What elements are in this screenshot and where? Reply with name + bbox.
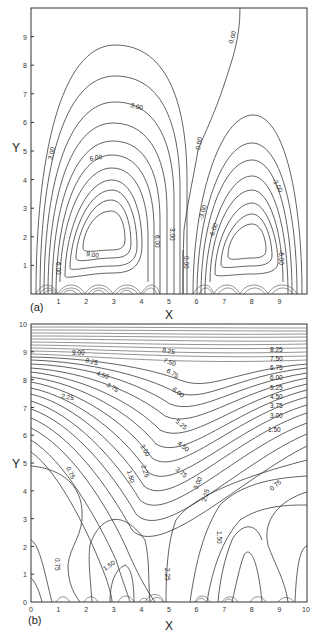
svg-text:9: 9 (23, 349, 27, 356)
svg-text:4: 4 (139, 606, 143, 613)
chart-a: 1 2 3 4 5 6 7 8 9 1 2 3 4 5 6 7 8 9 (12, 8, 307, 322)
svg-text:8: 8 (23, 377, 27, 384)
svg-text:1: 1 (57, 606, 61, 613)
svg-text:5: 5 (167, 298, 171, 305)
svg-text:7.50: 7.50 (163, 356, 178, 367)
svg-text:9: 9 (23, 34, 27, 41)
svg-text:6.00: 6.00 (154, 235, 161, 248)
svg-text:2.25: 2.25 (200, 488, 210, 502)
svg-text:6: 6 (23, 119, 27, 126)
svg-text:6: 6 (23, 432, 27, 439)
svg-text:5: 5 (23, 460, 27, 467)
svg-text:-6.00: -6.00 (278, 250, 285, 265)
svg-text:0.00: 0.00 (183, 256, 190, 269)
chart-b-left-region-contours (31, 466, 150, 602)
svg-text:1: 1 (23, 262, 27, 269)
svg-text:1.50: 1.50 (268, 426, 281, 433)
svg-text:3.00: 3.00 (130, 101, 144, 111)
svg-text:1: 1 (57, 298, 61, 305)
chart-a-y-axis-label: Y (12, 141, 20, 155)
svg-text:0.75: 0.75 (54, 558, 61, 571)
svg-text:5.25: 5.25 (174, 417, 188, 431)
svg-text:1.50: 1.50 (216, 531, 223, 544)
svg-text:8: 8 (250, 298, 254, 305)
svg-text:2.25: 2.25 (61, 392, 75, 401)
svg-text:9.00: 9.00 (72, 349, 85, 356)
chart-b: 0 1 2 3 4 5 6 7 8 9 10 0 1 2 3 4 (12, 321, 310, 633)
svg-text:3.75: 3.75 (106, 381, 121, 394)
chart-a-contour-labels: 0.00 0.00 0.00 3.00 3.00 6.00 6.00 6.00 … (46, 30, 285, 275)
chart-b-y-axis-label: Y (12, 457, 20, 471)
svg-text:6.00: 6.00 (270, 374, 283, 381)
svg-text:7: 7 (222, 298, 226, 305)
svg-text:2: 2 (23, 234, 27, 241)
svg-text:2: 2 (84, 298, 88, 305)
chart-b-x-ticks: 0 1 2 3 4 5 6 7 8 9 10 (29, 606, 310, 613)
chart-a-negative-cell-contours (193, 115, 302, 294)
svg-text:3: 3 (23, 516, 27, 523)
svg-text:6.00: 6.00 (55, 262, 62, 275)
svg-text:6.00: 6.00 (89, 153, 103, 162)
svg-text:6: 6 (195, 298, 199, 305)
svg-text:-6.00: -6.00 (207, 222, 219, 239)
svg-text:3.00: 3.00 (270, 412, 283, 419)
svg-text:10: 10 (302, 606, 310, 613)
svg-text:10: 10 (19, 321, 27, 328)
svg-text:7: 7 (222, 606, 226, 613)
svg-text:6.75: 6.75 (270, 364, 283, 371)
svg-text:5: 5 (23, 148, 27, 155)
svg-text:3.75: 3.75 (270, 402, 283, 409)
svg-text:4: 4 (23, 177, 27, 184)
svg-text:9: 9 (277, 606, 281, 613)
chart-b-panel-label: (b) (28, 614, 41, 626)
svg-text:8: 8 (23, 62, 27, 69)
chart-b-top-band-contours (31, 327, 307, 361)
svg-text:2.25: 2.25 (164, 568, 171, 581)
svg-text:9.00: 9.00 (86, 250, 100, 259)
svg-text:3.00: 3.00 (192, 476, 204, 491)
svg-text:0.00: 0.00 (227, 30, 237, 44)
svg-text:3.75: 3.75 (174, 465, 188, 479)
svg-text:8.25: 8.25 (270, 346, 283, 353)
svg-text:4.50: 4.50 (96, 369, 111, 380)
svg-text:6.00: 6.00 (171, 385, 185, 399)
svg-text:4: 4 (23, 488, 27, 495)
chart-b-right-region-contours (218, 492, 307, 602)
svg-text:8.25: 8.25 (162, 346, 176, 355)
svg-text:7.50: 7.50 (270, 355, 283, 362)
svg-text:5.25: 5.25 (270, 384, 283, 391)
svg-text:2: 2 (23, 544, 27, 551)
svg-text:0: 0 (23, 599, 27, 606)
svg-text:8.25: 8.25 (85, 356, 99, 366)
svg-text:7: 7 (23, 91, 27, 98)
svg-text:0.00: 0.00 (194, 136, 203, 150)
chart-a-y-ticks: 1 2 3 4 5 6 7 8 9 (23, 34, 34, 270)
svg-text:4: 4 (139, 298, 143, 305)
svg-text:7: 7 (23, 405, 27, 412)
chart-a-positive-cell-contours (36, 45, 187, 294)
svg-text:6: 6 (195, 606, 199, 613)
chart-a-x-ticks: 1 2 3 4 5 6 7 8 9 (57, 298, 282, 305)
svg-text:4.50: 4.50 (270, 393, 283, 400)
svg-text:9: 9 (277, 298, 281, 305)
svg-text:1: 1 (23, 571, 27, 578)
chart-a-zero-contours (183, 8, 240, 294)
figure: 1 2 3 4 5 6 7 8 9 1 2 3 4 5 6 7 8 9 (0, 0, 326, 642)
svg-text:0: 0 (29, 606, 33, 613)
svg-text:2.25: 2.25 (140, 464, 151, 479)
svg-text:2: 2 (84, 606, 88, 613)
svg-text:1.50: 1.50 (102, 559, 117, 572)
svg-text:3: 3 (112, 606, 116, 613)
chart-b-x-axis-label: X (165, 619, 173, 633)
svg-text:3.00: 3.00 (169, 228, 176, 241)
chart-a-panel-label: (a) (30, 301, 43, 313)
chart-a-x-axis-label: X (165, 308, 173, 322)
svg-text:3: 3 (112, 298, 116, 305)
svg-text:8: 8 (250, 606, 254, 613)
svg-text:5: 5 (167, 606, 171, 613)
chart-b-contour-labels: 9.00 8.25 8.25 8.25 7.50 7.50 6.75 6.75 … (54, 346, 283, 581)
svg-text:0.75: 0.75 (65, 465, 77, 480)
svg-text:3: 3 (23, 205, 27, 212)
svg-text:4.50: 4.50 (176, 439, 190, 453)
